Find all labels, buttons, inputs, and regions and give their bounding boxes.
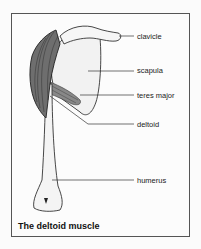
figure-caption: The deltoid muscle bbox=[18, 221, 100, 231]
label-humerus: humerus bbox=[137, 176, 166, 185]
label-teres-major: teres major bbox=[137, 91, 175, 100]
shoulder-illustration bbox=[0, 0, 201, 249]
label-deltoid: deltoid bbox=[137, 120, 159, 129]
label-clavicle: clavicle bbox=[137, 32, 162, 41]
label-scapula: scapula bbox=[137, 66, 163, 75]
